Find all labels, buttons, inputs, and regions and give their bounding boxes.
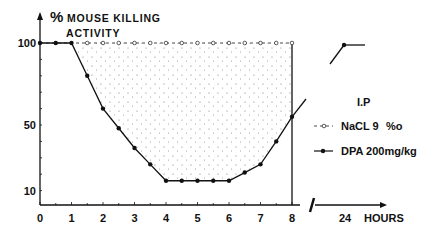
dpa-point <box>148 162 152 166</box>
x-axis-label: HOURS <box>364 212 404 224</box>
nacl-point <box>85 41 89 45</box>
dpa-point <box>274 139 278 143</box>
nacl-point <box>117 41 121 45</box>
axis-break-icon <box>310 198 314 212</box>
x-tick-label: 6 <box>226 212 232 224</box>
dpa-point <box>243 170 247 174</box>
dpa-point <box>258 162 262 166</box>
y-tick-label: 100 <box>18 37 36 49</box>
dpa-point <box>132 146 136 150</box>
x-tick-label-24: 24 <box>339 212 352 224</box>
y-tick-label: 50 <box>24 119 36 131</box>
dpa-point <box>180 179 184 183</box>
y-axis-label-line1: MOUSE KILLING <box>67 12 161 24</box>
x-tick-label: 8 <box>289 212 295 224</box>
dpa-point <box>101 106 105 110</box>
legend-nacl-label: NaCL 9 <box>341 120 379 132</box>
route-annotation: I.P <box>357 96 370 108</box>
y-axis-arrow-icon <box>37 12 43 20</box>
legend-nacl-suffix: %o <box>386 120 403 132</box>
dpa-point <box>227 179 231 183</box>
nacl-point <box>211 41 215 45</box>
x-tick-label: 0 <box>37 212 43 224</box>
x-tick-label: 4 <box>163 212 170 224</box>
x-axis-arrow-icon <box>380 202 387 208</box>
dpa-point <box>195 179 199 183</box>
chart: 01234567824HOURS1005010%MOUSE KILLINGACT… <box>0 0 443 235</box>
nacl-point <box>164 41 168 45</box>
y-tick-label: 10 <box>24 185 36 197</box>
dpa-point-24h <box>342 43 346 47</box>
dpa-point <box>117 126 121 130</box>
nacl-point <box>180 41 184 45</box>
nacl-point <box>133 41 137 45</box>
legend-dpa-marker <box>321 149 325 153</box>
series-dpa-line-extension <box>292 99 306 117</box>
nacl-point <box>101 41 105 45</box>
shaded-area <box>40 43 292 181</box>
nacl-point <box>196 41 200 45</box>
nacl-point <box>274 41 278 45</box>
x-tick-label: 2 <box>100 212 106 224</box>
dpa-point <box>38 41 42 45</box>
y-axis-label-line2: ACTIVITY <box>66 27 120 39</box>
nacl-point <box>148 41 152 45</box>
legend-nacl-marker <box>322 124 326 128</box>
x-tick-label: 7 <box>257 212 263 224</box>
dpa-point <box>54 41 58 45</box>
nacl-point <box>290 41 294 45</box>
x-tick-label: 5 <box>194 212 200 224</box>
dpa-point <box>164 179 168 183</box>
dpa-point <box>85 74 89 78</box>
nacl-point <box>243 41 247 45</box>
y-axis-percent: % <box>50 8 63 25</box>
x-tick-label: 3 <box>131 212 137 224</box>
dpa-point <box>211 179 215 183</box>
nacl-point <box>227 41 231 45</box>
nacl-point <box>259 41 263 45</box>
dpa-24h-line <box>330 45 344 64</box>
x-tick-label: 1 <box>68 212 74 224</box>
dpa-point <box>290 115 294 119</box>
legend-dpa-label: DPA 200mg/kg <box>341 145 417 157</box>
dpa-point <box>69 41 73 45</box>
